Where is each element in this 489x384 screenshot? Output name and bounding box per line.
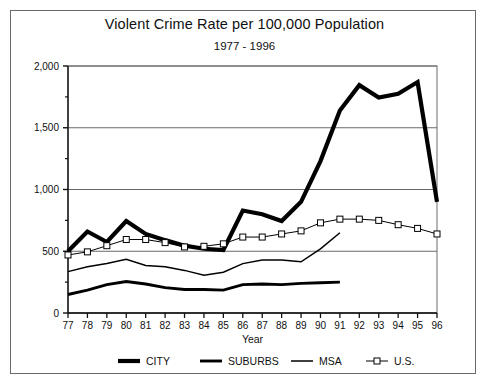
legend-label-us: U.S. <box>394 355 414 367</box>
y-tick-label: 1,000 <box>34 184 59 195</box>
x-tick-label: 77 <box>62 320 74 331</box>
x-tick-label: 89 <box>295 320 307 331</box>
series-marker-us <box>201 243 207 249</box>
x-tick-label: 93 <box>373 320 385 331</box>
series-marker-us <box>220 241 226 247</box>
series-marker-us <box>395 222 401 228</box>
legend-label-msa: MSA <box>319 355 342 367</box>
x-axis: 7778798081828384858687888990919293949596 <box>62 313 443 331</box>
x-tick-label: 87 <box>257 320 269 331</box>
series-marker-us <box>298 228 304 234</box>
legend-label-suburbs: SUBURBS <box>228 355 279 367</box>
series-marker-us <box>415 225 421 231</box>
series-line-city <box>68 82 437 251</box>
y-axis: 05001,0001,5002,000 <box>34 61 68 319</box>
series-marker-us <box>143 237 149 243</box>
series-line-suburbs <box>68 282 340 295</box>
series-marker-us <box>162 240 168 246</box>
series-marker-us <box>104 243 110 249</box>
x-tick-label: 91 <box>334 320 346 331</box>
y-tick-label: 1,500 <box>34 122 59 133</box>
x-tick-label: 82 <box>160 320 172 331</box>
x-tick-label: 88 <box>276 320 288 331</box>
x-tick-label: 79 <box>101 320 113 331</box>
x-tick-label: 85 <box>218 320 230 331</box>
x-tick-label: 96 <box>431 320 443 331</box>
series-marker-us <box>356 216 362 222</box>
gridlines <box>68 66 437 313</box>
y-tick-label: 500 <box>42 246 59 257</box>
x-tick-label: 90 <box>315 320 327 331</box>
series-marker-us <box>317 220 323 226</box>
series-marker-us <box>279 231 285 237</box>
series-marker-us <box>240 234 246 240</box>
legend-label-city: CITY <box>146 355 170 367</box>
y-tick-label: 2,000 <box>34 61 59 72</box>
series-marker-us <box>65 252 71 258</box>
x-tick-label: 86 <box>237 320 249 331</box>
x-tick-label: 81 <box>140 320 152 331</box>
series-marker-us <box>84 249 90 255</box>
legend-marker-us <box>374 358 380 364</box>
series-marker-us <box>434 231 440 237</box>
series-marker-us <box>337 216 343 222</box>
x-tick-label: 92 <box>354 320 366 331</box>
chart-plot: 05001,0001,5002,000 77787980818283848586… <box>0 0 489 384</box>
series-marker-us <box>376 217 382 223</box>
x-tick-label: 84 <box>198 320 210 331</box>
data-series <box>65 82 440 294</box>
x-tick-label: 95 <box>412 320 424 331</box>
x-tick-label: 78 <box>82 320 94 331</box>
x-axis-title: Year <box>242 333 264 345</box>
x-tick-label: 94 <box>393 320 405 331</box>
x-tick-label: 80 <box>121 320 133 331</box>
x-tick-label: 83 <box>179 320 191 331</box>
chart-figure: Violent Crime Rate per 100,000 Populatio… <box>0 0 489 384</box>
series-marker-us <box>259 234 265 240</box>
series-marker-us <box>182 244 188 250</box>
y-tick-label: 0 <box>53 308 59 319</box>
chart-legend: CITYSUBURBSMSAU.S. <box>118 355 414 367</box>
series-marker-us <box>123 237 129 243</box>
